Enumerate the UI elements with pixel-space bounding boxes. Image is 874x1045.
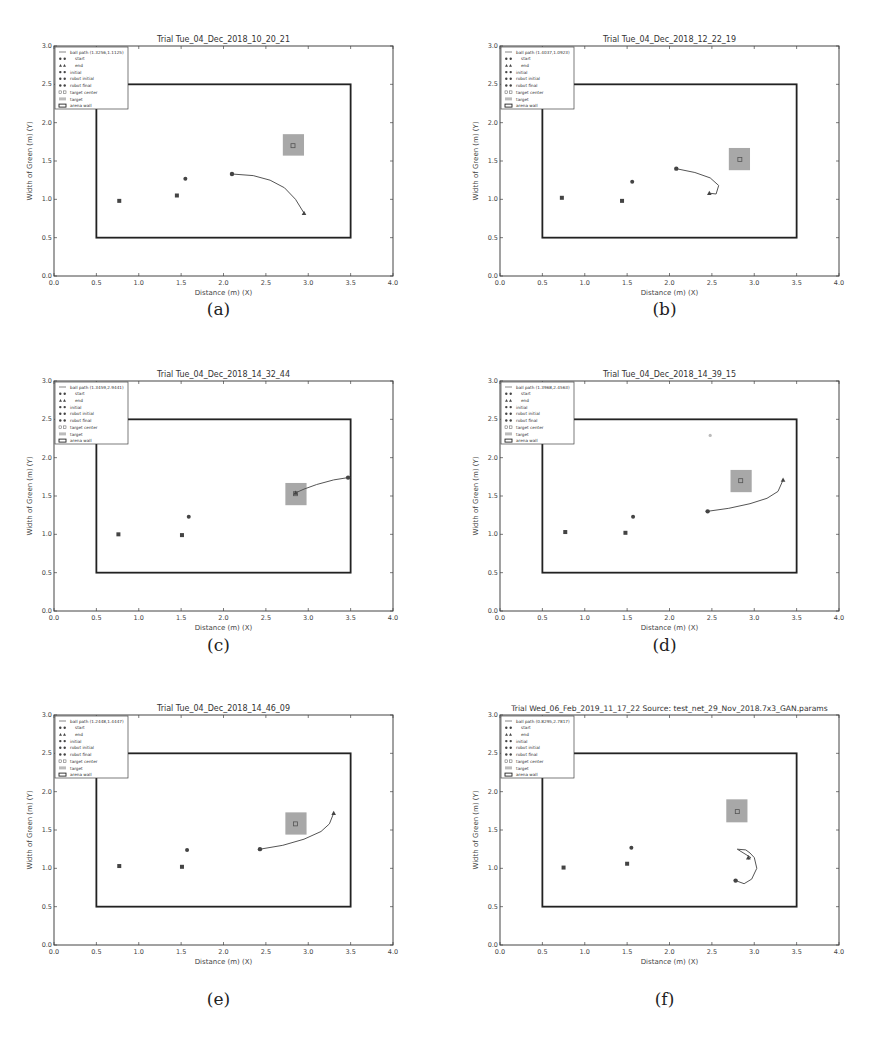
y-tick-label: 2.0 <box>488 788 498 796</box>
start-marker <box>258 847 262 851</box>
legend-entry: end <box>521 63 529 68</box>
x-tick-label: 2.0 <box>218 948 228 956</box>
legend-entry: robot final <box>70 752 91 757</box>
legend: ball path (0.8295,2.7817)startendinitial… <box>501 716 574 778</box>
x-tick-label: 0.5 <box>91 614 101 622</box>
legend-entry: start <box>521 391 531 396</box>
y-tick-label: 2.0 <box>488 119 498 127</box>
robot-final-marker <box>175 194 179 198</box>
legend-entry: initial <box>70 70 82 75</box>
initial-marker <box>185 848 189 852</box>
legend-entry: robot final <box>516 83 537 88</box>
arena-wall <box>542 753 796 906</box>
robot-initial-marker <box>563 530 567 534</box>
subplot-caption: (a) <box>0 299 437 319</box>
y-tick-label: 1.0 <box>42 864 52 872</box>
legend: ball path (1.3256,1.1125)startendinitial… <box>55 47 128 109</box>
y-tick-label: 3.0 <box>42 42 52 50</box>
x-tick-label: 1.0 <box>580 948 590 956</box>
plot-canvas: Trial Tue_04_Dec_2018_14_32_440.00.51.01… <box>0 335 437 635</box>
y-tick-label: 1.0 <box>488 864 498 872</box>
x-tick-label: 3.5 <box>791 614 801 622</box>
y-tick-label: 1.0 <box>42 195 52 203</box>
legend-entry: start <box>521 56 531 61</box>
legend-entry: ball path (1.3968,2.4563) <box>516 385 570 390</box>
legend-entry: initial <box>516 70 528 75</box>
legend-entry: start <box>75 56 85 61</box>
y-tick-label: 0.0 <box>42 941 52 949</box>
y-tick-label: 2.5 <box>42 749 52 757</box>
legend-entry: robot initial <box>70 745 94 750</box>
initial-marker <box>183 177 187 181</box>
y-tick-label: 2.5 <box>42 415 52 423</box>
legend-entry: robot final <box>70 83 91 88</box>
x-tick-label: 4.0 <box>834 948 844 956</box>
y-tick-label: 1.5 <box>488 492 498 500</box>
legend-entry: end <box>521 398 529 403</box>
initial-marker <box>631 515 635 519</box>
legend-entry: initial <box>70 405 82 410</box>
legend-entry: ball path (1.3256,1.1125) <box>70 50 124 55</box>
x-tick-label: 2.0 <box>664 948 674 956</box>
y-tick-label: 0.5 <box>42 234 52 242</box>
x-tick-label: 4.0 <box>834 614 844 622</box>
x-axis-label: Distance (m) (X) <box>641 958 699 966</box>
y-tick-label: 0.5 <box>42 569 52 577</box>
legend-entry: robot final <box>70 418 91 423</box>
arena-wall <box>542 419 796 572</box>
x-tick-label: 0.5 <box>91 948 101 956</box>
legend-entry: arena wall <box>516 438 538 443</box>
legend-entry: target center <box>70 425 98 430</box>
end-marker <box>331 811 336 815</box>
y-tick-label: 1.0 <box>42 530 52 538</box>
legend-entry: robot final <box>516 418 537 423</box>
robot-initial-marker <box>117 864 121 868</box>
subplot-d: Trial Tue_04_Dec_2018_14_39_150.00.51.01… <box>446 335 874 670</box>
x-tick-label: 1.5 <box>622 279 632 287</box>
legend-entry: initial <box>516 405 528 410</box>
legend: ball path (1.2448,1.4447)startendinitial… <box>55 716 128 778</box>
x-tick-label: 0.5 <box>537 614 547 622</box>
y-tick-label: 1.5 <box>42 157 52 165</box>
arena-wall <box>96 419 350 572</box>
y-axis-label: Width of Green (m) (Y) <box>472 121 480 200</box>
x-tick-label: 3.5 <box>345 614 355 622</box>
legend-entry: target center <box>516 425 544 430</box>
plot-title: Trial Tue_04_Dec_2018_10_20_21 <box>156 35 290 44</box>
x-tick-label: 0.0 <box>49 279 59 287</box>
plot-canvas: Trial Tue_04_Dec_2018_14_39_150.00.51.01… <box>446 335 874 635</box>
plot-title: Trial Wed_06_Feb_2019_11_17_22 Source: t… <box>510 704 827 713</box>
legend-entry: end <box>75 398 83 403</box>
legend-entry: start <box>521 725 531 730</box>
plot-title: Trial Tue_04_Dec_2018_14_39_15 <box>602 370 736 379</box>
plot-canvas: Trial Tue_04_Dec_2018_10_20_210.00.51.01… <box>0 0 437 300</box>
plot-title: Trial Tue_04_Dec_2018_14_46_09 <box>156 704 290 713</box>
ball-path <box>676 169 718 194</box>
y-axis-label: Width of Green (m) (Y) <box>472 790 480 869</box>
x-tick-label: 2.5 <box>707 279 717 287</box>
y-axis-label: Width of Green (m) (Y) <box>26 790 34 869</box>
y-tick-label: 1.5 <box>42 492 52 500</box>
start-marker <box>230 172 234 176</box>
legend-entry: target center <box>70 759 98 764</box>
x-tick-label: 3.0 <box>749 614 759 622</box>
y-axis-label: Width of Green (m) (Y) <box>26 121 34 200</box>
target-area <box>731 470 752 492</box>
x-tick-label: 3.0 <box>749 279 759 287</box>
y-tick-label: 2.0 <box>42 119 52 127</box>
x-tick-label: 1.5 <box>176 279 186 287</box>
x-tick-label: 2.5 <box>261 614 271 622</box>
legend-entry: robot final <box>516 752 537 757</box>
subplot-caption: (d) <box>446 635 874 655</box>
legend-entry: ball path (1.3459,2.9441) <box>70 385 124 390</box>
x-axis-label: Distance (m) (X) <box>195 958 253 966</box>
x-tick-label: 1.5 <box>622 614 632 622</box>
y-tick-label: 0.5 <box>488 569 498 577</box>
legend-entry: ball path (0.8295,2.7817) <box>516 719 570 724</box>
x-tick-label: 2.5 <box>261 279 271 287</box>
robot-final-marker <box>180 533 184 537</box>
target-area <box>285 812 306 834</box>
x-tick-label: 2.0 <box>664 279 674 287</box>
x-tick-label: 1.5 <box>622 948 632 956</box>
x-axis-label: Distance (m) (X) <box>641 624 699 632</box>
